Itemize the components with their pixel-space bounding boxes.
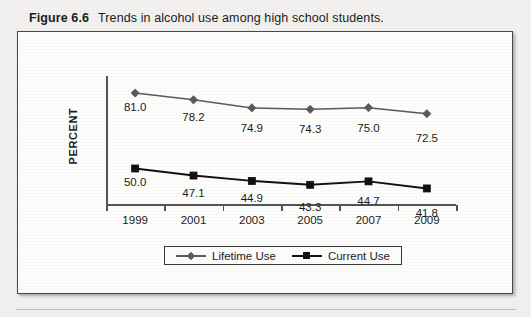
figure-caption: Figure 6.6Trends in alcohol use among hi… xyxy=(29,8,499,28)
data-label: 81.0 xyxy=(105,101,165,113)
data-label: 50.0 xyxy=(105,176,165,188)
data-point-marker xyxy=(132,165,139,172)
data-label: 75.0 xyxy=(339,122,399,134)
data-label: 78.2 xyxy=(164,111,224,123)
data-label: 72.5 xyxy=(397,132,457,144)
figure-number: Figure 6.6 xyxy=(29,11,89,25)
figure-title: Trends in alcohol use among high school … xyxy=(98,11,384,25)
data-label: 74.9 xyxy=(222,122,282,134)
data-point-marker xyxy=(248,104,256,112)
data-point-marker xyxy=(365,178,372,185)
data-point-marker xyxy=(307,181,314,188)
page-bottom-rule xyxy=(16,309,516,310)
data-point-marker xyxy=(364,104,372,112)
series-line-current-use xyxy=(135,168,427,188)
data-label: 47.1 xyxy=(164,187,224,199)
data-label: 41.8 xyxy=(397,207,457,219)
data-label: 43.3 xyxy=(280,201,340,213)
figure-box: PERCENT 199920012003200520072009 81.078.… xyxy=(17,31,513,294)
legend-item-current-use[interactable]: Current Use xyxy=(292,250,390,262)
legend-item-lifetime-use[interactable]: Lifetime Use xyxy=(176,250,276,262)
data-point-marker xyxy=(131,89,139,97)
legend-label: Lifetime Use xyxy=(212,250,276,262)
page-background: Figure 6.6Trends in alcohol use among hi… xyxy=(0,0,531,317)
data-label: 44.7 xyxy=(339,195,399,207)
data-point-marker xyxy=(189,96,197,104)
legend-label: Current Use xyxy=(328,250,390,262)
data-point-marker xyxy=(190,172,197,179)
data-point-marker xyxy=(248,177,255,184)
data-point-marker xyxy=(423,185,430,192)
diamond-marker-icon xyxy=(176,250,206,261)
data-point-marker xyxy=(306,105,314,113)
chart-legend: Lifetime UseCurrent Use xyxy=(164,246,402,265)
data-point-marker xyxy=(423,110,431,118)
data-label: 44.9 xyxy=(222,192,282,204)
data-label: 74.3 xyxy=(280,123,340,135)
square-marker-icon xyxy=(292,250,322,261)
